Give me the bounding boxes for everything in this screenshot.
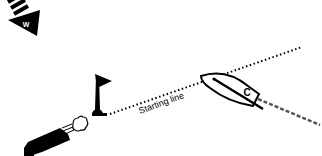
wind-arrow-icon: W [8, 0, 40, 36]
wind-label: W [23, 21, 30, 28]
boat-label: C [243, 87, 250, 98]
sailboat-icon: C [201, 74, 263, 109]
flag-icon [92, 74, 112, 116]
smoke-icon [73, 116, 88, 131]
cannon-icon [24, 116, 88, 156]
race-start-diagram: W Starting line C [0, 0, 322, 156]
starting-line-label: Starting line [137, 90, 185, 116]
boat-track [258, 99, 320, 125]
